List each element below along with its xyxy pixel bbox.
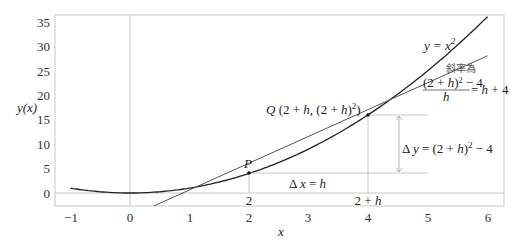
delta-y-label: Δ y = (2 + h)2 − 4 xyxy=(402,140,493,156)
y-axis-label: y(x) xyxy=(15,100,37,115)
slope-fraction: (2 + h)2 − 4 h = h + 4 xyxy=(423,75,509,104)
svg-text:30: 30 xyxy=(37,39,50,54)
point-q xyxy=(366,113,370,117)
svg-text:15: 15 xyxy=(37,112,50,127)
chart: 35 30 25 20 15 10 5 0 −1 0 1 2 3 4 5 6 y… xyxy=(0,0,518,240)
svg-text:10: 10 xyxy=(37,137,50,152)
svg-text:20: 20 xyxy=(37,88,50,103)
svg-text:h: h xyxy=(443,89,450,104)
svg-text:= h + 4: = h + 4 xyxy=(471,82,509,97)
svg-text:2: 2 xyxy=(246,210,253,225)
y-ticks: 35 30 25 20 15 10 5 0 xyxy=(37,15,50,201)
svg-text:0: 0 xyxy=(127,210,134,225)
svg-text:4: 4 xyxy=(365,210,372,225)
point-p xyxy=(247,171,251,175)
svg-text:35: 35 xyxy=(37,15,50,30)
svg-text:25: 25 xyxy=(37,64,50,79)
svg-text:3: 3 xyxy=(305,210,312,225)
x-mark-p: 2 xyxy=(246,193,253,208)
svg-text:0: 0 xyxy=(44,186,51,201)
svg-text:5: 5 xyxy=(425,210,432,225)
label-p: P xyxy=(243,156,252,171)
label-q: Q (2 + h, (2 + h)2) xyxy=(266,101,361,117)
svg-text:5: 5 xyxy=(44,161,51,176)
x-ticks: −1 0 1 2 3 4 5 6 xyxy=(64,210,492,225)
slope-title: 斜率為 xyxy=(446,62,476,74)
svg-text:1: 1 xyxy=(187,210,194,225)
svg-text:6: 6 xyxy=(485,210,492,225)
svg-text:−1: −1 xyxy=(64,210,78,225)
curve-label: y = x2 xyxy=(422,36,456,53)
delta-x-label: Δ x = h xyxy=(289,176,326,191)
x-mark-q: 2 + h xyxy=(355,193,382,208)
x-axis-label: x xyxy=(277,224,284,239)
